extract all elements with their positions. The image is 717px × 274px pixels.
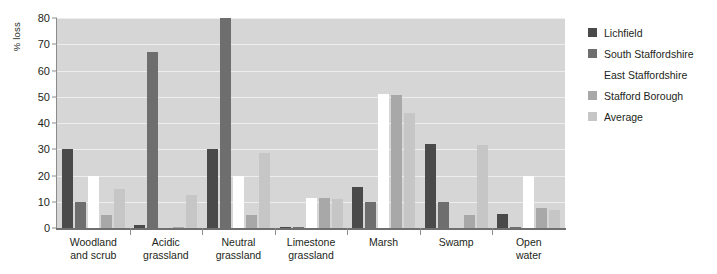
legend-swatch-icon (588, 28, 597, 37)
x-axis-category-label: Limestonegrassland (275, 236, 348, 262)
legend-item[interactable]: Stafford Borough (588, 85, 717, 106)
y-axis-tick-0: 0 (44, 222, 50, 234)
x-axis-separator (202, 228, 203, 235)
bar (549, 210, 560, 228)
bar (246, 215, 257, 228)
bar (391, 95, 402, 228)
x-axis-separator (275, 228, 276, 235)
bar (306, 198, 317, 228)
bar (114, 189, 125, 228)
x-axis-category-label: Woodlandand scrub (57, 236, 130, 262)
bar-group (130, 18, 203, 228)
bar (75, 202, 86, 228)
legend-item[interactable]: East Staffordshire (588, 64, 717, 85)
chart-root: % loss 01020304050607080 Woodlandand scr… (0, 0, 717, 274)
x-axis-category-label: Neutralgrassland (202, 236, 275, 262)
y-axis-tick-20: 20 (38, 170, 50, 182)
bar-group (420, 18, 493, 228)
bar (477, 145, 488, 228)
x-axis-label-line: Swamp (422, 236, 491, 249)
x-axis-label-line: and scrub (59, 249, 128, 262)
y-axis-title: % loss (11, 22, 25, 51)
x-axis-label-line: water (494, 249, 563, 262)
bar (88, 176, 99, 229)
bar (147, 52, 158, 228)
bar-group (492, 18, 565, 228)
x-axis-separator (492, 228, 493, 235)
legend-swatch-icon (588, 112, 597, 121)
x-axis-label-line: grassland (277, 249, 346, 262)
x-axis-line (56, 228, 566, 230)
legend-label: East Staffordshire (604, 69, 687, 81)
bar (233, 176, 244, 229)
legend-item[interactable]: Lichfield (588, 22, 717, 43)
legend-label: South Staffordshire (604, 48, 694, 60)
x-axis-category-label: Marsh (347, 236, 420, 262)
y-axis-tick-10: 10 (38, 196, 50, 208)
bar (464, 215, 475, 228)
legend-label: Stafford Borough (604, 90, 683, 102)
bar (425, 144, 436, 228)
bar-groups (57, 18, 565, 228)
bar (378, 94, 389, 228)
x-axis-separator (130, 228, 131, 235)
x-axis-label-line: Limestone (277, 236, 346, 249)
y-axis-tick-50: 50 (38, 91, 50, 103)
legend-swatch-icon (588, 70, 597, 79)
bar (62, 149, 73, 228)
bar (438, 202, 449, 228)
x-axis-label-line: grassland (204, 249, 273, 262)
x-axis-category-label: Openwater (492, 236, 565, 262)
legend-swatch-icon (588, 49, 597, 58)
bar (101, 215, 112, 228)
x-axis-label-line: Woodland (59, 236, 128, 249)
legend: LichfieldSouth StaffordshireEast Staffor… (588, 22, 717, 127)
legend-swatch-icon (588, 91, 597, 100)
plot-area (57, 18, 565, 228)
bar (319, 198, 330, 228)
y-axis-tick-30: 30 (38, 143, 50, 155)
x-axis-category-label: Swamp (420, 236, 493, 262)
bar-group (202, 18, 275, 228)
y-axis-tick-40: 40 (38, 117, 50, 129)
bar-group (347, 18, 420, 228)
bar (352, 187, 363, 228)
bar (365, 202, 376, 228)
legend-item[interactable]: Average (588, 106, 717, 127)
x-axis-label-line: Open (494, 236, 563, 249)
bar (207, 149, 218, 228)
legend-item[interactable]: South Staffordshire (588, 43, 717, 64)
bar-group (275, 18, 348, 228)
bar-group (57, 18, 130, 228)
y-axis-tick-80: 80 (38, 12, 50, 24)
x-axis-label-line: Acidic (132, 236, 201, 249)
legend-label: Lichfield (604, 27, 643, 39)
x-axis-category-label: Acidicgrassland (130, 236, 203, 262)
bar (404, 113, 415, 229)
bar (220, 18, 231, 228)
x-axis-separator (347, 228, 348, 235)
bar (186, 195, 197, 228)
bar (259, 153, 270, 228)
bar (536, 208, 547, 228)
bar (332, 199, 343, 228)
x-axis-label-line: Neutral (204, 236, 273, 249)
x-axis-label-line: Marsh (349, 236, 418, 249)
bar (523, 176, 534, 229)
x-axis-category-labels: Woodlandand scrubAcidicgrasslandNeutralg… (57, 236, 565, 262)
y-axis-tick-70: 70 (38, 38, 50, 50)
y-axis-tick-60: 60 (38, 65, 50, 77)
x-axis-separator (420, 228, 421, 235)
y-axis-tick-labels: 01020304050607080 (24, 18, 50, 228)
legend-label: Average (604, 111, 643, 123)
bar (497, 214, 508, 228)
x-axis-label-line: grassland (132, 249, 201, 262)
